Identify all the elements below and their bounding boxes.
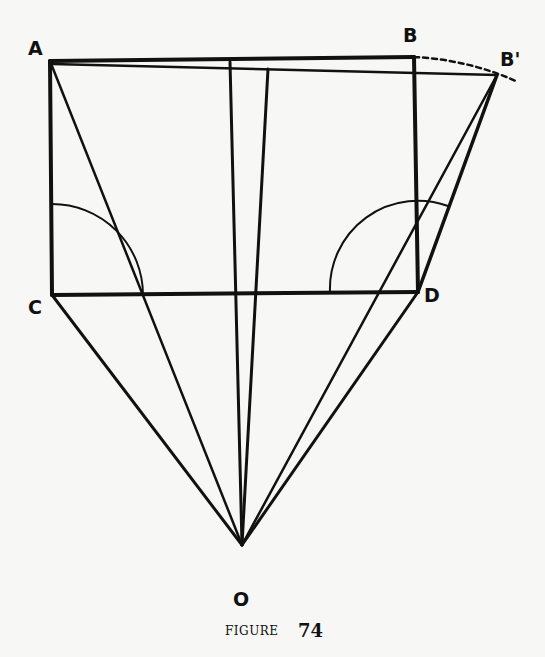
figure-caption-word: FIGURE — [225, 624, 279, 638]
segment-AO — [50, 61, 242, 545]
segment-B-prime-O — [242, 75, 497, 545]
label-B-prime: B' — [500, 48, 520, 70]
segment-BD — [414, 57, 418, 292]
label-C: C — [28, 296, 42, 318]
figure-caption-number: 74 — [298, 620, 323, 641]
label-O: O — [233, 588, 249, 610]
segment-AB-prime — [52, 64, 497, 75]
segment-CO — [52, 295, 242, 545]
angle-arc-C — [52, 204, 143, 295]
figure-74-diagram: A B B' C D O FIGURE 74 — [0, 0, 545, 657]
segment-AB — [50, 57, 414, 61]
label-B: B — [403, 24, 417, 46]
label-D: D — [424, 284, 440, 306]
segment-B-prime-D — [418, 75, 497, 292]
segment-DO — [242, 292, 418, 545]
label-A: A — [28, 37, 43, 59]
segment-AC — [50, 61, 52, 295]
segment-vertical-2 — [242, 69, 268, 545]
segment-vertical-1 — [230, 62, 242, 545]
angle-arc-D — [330, 201, 448, 292]
